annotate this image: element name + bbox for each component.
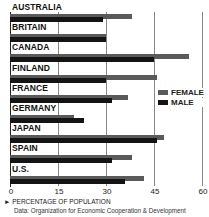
chart-row: SPAIN: [0, 144, 209, 164]
bar-chart: AUSTRALIABRITAINCANADAFINLANDFRANCEGERMA…: [0, 0, 209, 217]
category-label: SPAIN: [11, 144, 39, 153]
bar-male: [10, 57, 154, 62]
male-swatch: [158, 100, 168, 105]
x-tick-label: 0: [9, 187, 13, 196]
chart-row: CANADA: [0, 43, 209, 63]
chart-row: AUSTRALIA: [0, 3, 209, 23]
female-swatch: [158, 90, 168, 95]
x-tick-label: 30: [103, 187, 112, 196]
bar-male: [10, 78, 106, 83]
category-label: AUSTRALIA: [11, 3, 63, 12]
category-label: FINLAND: [11, 64, 51, 73]
source-note: Data: Organization for Economic Cooperat…: [14, 207, 186, 215]
legend-item-male: MALE: [158, 98, 204, 107]
category-label: U.S.: [11, 165, 30, 174]
chart-row: BRITAIN: [0, 23, 209, 43]
chart-row: U.S.: [0, 165, 209, 185]
category-label: GERMANY: [11, 104, 57, 113]
category-label: CANADA: [11, 43, 50, 52]
category-label: BRITAIN: [11, 23, 48, 32]
x-tick-label: 60: [199, 187, 208, 196]
bar-male: [10, 179, 125, 184]
x-axis-label: ► PERCENTAGE OF POPULATION: [4, 198, 111, 206]
category-label: FRANCE: [11, 84, 49, 93]
legend-label-male: MALE: [171, 98, 194, 107]
bar-male: [10, 158, 112, 163]
legend: FEMALE MALE: [158, 88, 204, 108]
chart-row: FINLAND: [0, 64, 209, 84]
x-tick-label: 15: [55, 187, 64, 196]
legend-item-female: FEMALE: [158, 88, 204, 97]
chart-row: JAPAN: [0, 124, 209, 144]
x-tick-label: 45: [151, 187, 160, 196]
category-label: JAPAN: [11, 124, 42, 133]
legend-label-female: FEMALE: [171, 88, 204, 97]
